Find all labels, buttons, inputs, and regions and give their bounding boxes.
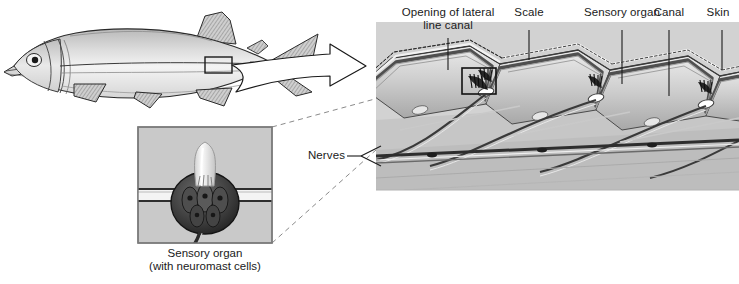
label-opening-of-lateral-line-canal: Opening of lateral line canal: [382, 6, 514, 31]
cross-section-panel: [360, 22, 739, 190]
inset-caption-line1: Sensory organ: [168, 247, 243, 259]
label-opening-line1: Opening of lateral: [402, 6, 495, 18]
label-scale-text: Scale: [514, 6, 543, 18]
label-canal: Canal: [641, 6, 697, 19]
cupula: [195, 142, 216, 186]
label-opening-line2: line canal: [423, 19, 473, 31]
nerves-leader-line: [347, 146, 381, 166]
neuromast-inset: [138, 127, 272, 259]
figure-canvas: Opening of lateral line canal Scale Sens…: [0, 0, 739, 284]
inset-caption: Sensory organ (with neuromast cells): [125, 247, 285, 273]
label-nerves: Nerves: [287, 149, 345, 162]
inset-caption-line2: (with neuromast cells): [149, 260, 261, 272]
label-canal-text: Canal: [654, 6, 685, 18]
label-skin-text: Skin: [707, 6, 730, 18]
label-scale: Scale: [500, 6, 558, 19]
label-skin: Skin: [697, 6, 739, 19]
label-nerves-text: Nerves: [308, 149, 345, 161]
figure-graphics: [0, 0, 739, 284]
